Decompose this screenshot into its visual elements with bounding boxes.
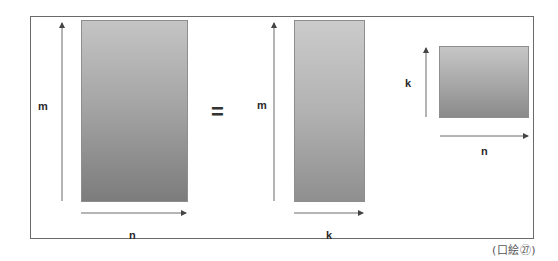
factor-matrix-1-col-label: k (326, 229, 332, 241)
equals-sign: = (211, 101, 224, 123)
left-matrix-col-label: n (129, 229, 136, 241)
left-matrix-row-label: m (38, 100, 48, 112)
factor-matrix-1 (294, 20, 365, 202)
left-matrix (81, 20, 188, 202)
factor-matrix-2-col-label: n (481, 145, 488, 157)
figure-caption: (口絵㉗) (492, 241, 536, 257)
factor-matrix-1-row-label: m (257, 99, 267, 111)
factor-matrix-2 (439, 46, 529, 118)
factor-matrix-2-row-label: k (405, 77, 411, 89)
